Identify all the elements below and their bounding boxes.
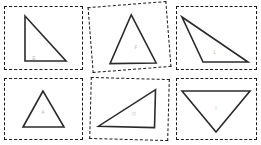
triangle-graphic-obtuse-thin-triangle	[176, 6, 257, 70]
triangle-outline	[106, 13, 156, 66]
triangle-label: F	[134, 45, 137, 50]
triangle-label: E	[32, 56, 35, 61]
triangle-label: G	[132, 112, 136, 117]
triangle-graphic-right-triangle-shallow	[89, 77, 170, 141]
triangle-label: I	[215, 106, 216, 111]
triangle-outline	[182, 17, 248, 62]
triangle-worksheet-canvas: EFLAGI	[0, 0, 261, 145]
shape-cell-5[interactable]: G	[89, 77, 170, 141]
triangle-label: A	[41, 110, 44, 115]
shape-cell-2[interactable]: F	[88, 1, 172, 73]
triangle-graphic-acute-triangle-upright-rotated-cell	[88, 1, 172, 73]
triangle-graphic-right-triangle-left-angle	[4, 6, 83, 70]
triangle-outline	[25, 16, 66, 61]
triangle-label: L	[214, 50, 217, 55]
shape-cell-1[interactable]: E	[4, 6, 83, 70]
shape-cell-6[interactable]: I	[176, 78, 257, 140]
triangle-outline	[99, 88, 156, 127]
shape-cell-4[interactable]: A	[4, 78, 83, 140]
triangle-outline	[182, 91, 250, 132]
shape-cell-3[interactable]: L	[176, 6, 257, 70]
